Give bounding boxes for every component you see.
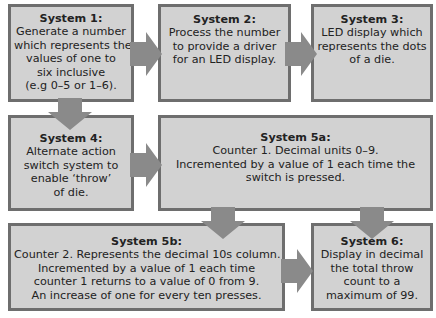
- system-1-box: System 1: Generate a number which repres…: [8, 4, 134, 102]
- system-5a-line: Incremented by a value of 1 each time th…: [164, 158, 427, 171]
- system-5a-box: System 5a: Counter 1. Decimal units 0–9.…: [158, 115, 433, 211]
- right-arrow-icon: [285, 32, 317, 76]
- arrow-s1-to-s4: [48, 98, 92, 130]
- system-3-box: System 3: LED display which represents t…: [311, 4, 433, 102]
- system-6-line: count to a: [317, 275, 427, 288]
- system-2-line: Process the number: [164, 26, 285, 39]
- right-arrow-icon: [130, 143, 162, 187]
- system-4-line: of die.: [14, 186, 128, 199]
- system-5a-title: System 5a:: [164, 131, 427, 144]
- arrow-s5b-to-s6: [281, 249, 313, 293]
- arrow-s1-to-s2: [130, 32, 162, 76]
- right-arrow-icon: [130, 32, 162, 76]
- system-5a-line: Counter 1. Decimal units 0–9.: [164, 144, 427, 157]
- system-1-line: values of one to: [14, 52, 128, 65]
- system-2-line: for an LED display.: [164, 53, 285, 66]
- system-5a-line: switch is pressed.: [164, 171, 427, 184]
- arrow-s5a-to-s6: [350, 207, 394, 239]
- system-4-line: switch system to: [14, 159, 128, 172]
- system-6-line: the total throw: [317, 262, 427, 275]
- arrow-s2-to-s3: [285, 32, 317, 76]
- system-5b-line: An increase of one for every ten presses…: [14, 289, 279, 302]
- system-5b-line: counter 1 returns to a value of 0 from 9…: [14, 275, 279, 288]
- right-arrow-icon: [281, 249, 313, 293]
- system-4-line: Alternate action: [14, 145, 128, 158]
- system-3-title: System 3:: [317, 13, 427, 26]
- system-2-box: System 2: Process the number to provide …: [158, 4, 291, 102]
- system-1-title: System 1:: [14, 12, 128, 25]
- system-1-line: (e.g 0–5 or 1–6).: [14, 79, 128, 92]
- system-6-line: Display in decimal: [317, 248, 427, 261]
- system-3-line: of a die.: [317, 53, 427, 66]
- system-6-line: maximum of 99.: [317, 289, 427, 302]
- system-1-line: six inclusive: [14, 66, 128, 79]
- arrow-s4-to-s5a: [130, 143, 162, 187]
- system-1-line: which represents the: [14, 39, 128, 52]
- down-arrow-icon: [350, 207, 394, 239]
- system-2-title: System 2:: [164, 13, 285, 26]
- system-1-line: Generate a number: [14, 25, 128, 38]
- system-2-line: to provide a driver: [164, 40, 285, 53]
- system-5b-line: Counter 2. Represents the decimal 10s co…: [14, 248, 279, 261]
- system-5b-line: Incremented by a value of 1 each time: [14, 262, 279, 275]
- down-arrow-icon: [48, 98, 92, 130]
- system-4-line: enable ‘throw’: [14, 172, 128, 185]
- system-4-title: System 4:: [14, 132, 128, 145]
- arrow-s5a-to-s5b: [201, 207, 245, 239]
- system-3-line: LED display which: [317, 26, 427, 39]
- down-arrow-icon: [201, 207, 245, 239]
- system-3-line: represents the dots: [317, 40, 427, 53]
